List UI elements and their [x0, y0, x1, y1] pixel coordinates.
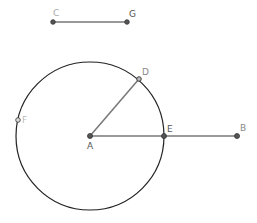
point-g[interactable]	[125, 20, 130, 25]
label-d: D	[142, 67, 149, 77]
label-g: G	[129, 9, 136, 19]
point-c[interactable]	[51, 20, 56, 25]
point-e[interactable]	[162, 134, 167, 139]
point-d[interactable]	[137, 77, 142, 82]
label-c: C	[53, 8, 59, 18]
point-a[interactable]	[88, 134, 93, 139]
label-a: A	[87, 141, 94, 151]
segment-ad[interactable]	[90, 79, 139, 136]
label-f: F	[22, 115, 27, 125]
geometry-canvas: C G D F A E B	[0, 0, 257, 223]
label-b: B	[240, 123, 246, 133]
point-b[interactable]	[235, 134, 240, 139]
label-e: E	[167, 124, 173, 134]
point-f[interactable]	[16, 118, 21, 123]
